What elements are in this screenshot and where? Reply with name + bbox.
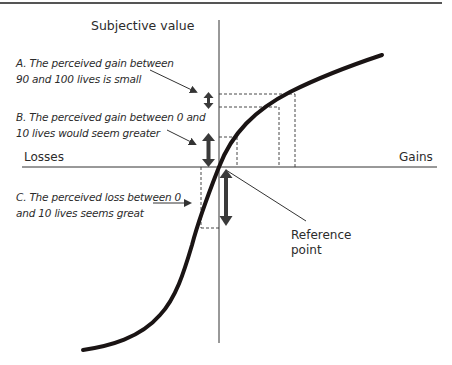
annotation-b: B. The perceived gain between 0 and 10 l… bbox=[16, 109, 206, 141]
dashed-guides bbox=[201, 94, 295, 228]
annotation-a: A. The perceived gain between 90 and 100… bbox=[16, 55, 174, 87]
x-axis-losses-label: Losses bbox=[24, 150, 64, 164]
reference-point-label: Reference point bbox=[291, 228, 351, 258]
y-axis-label: Subjective value bbox=[91, 18, 194, 33]
annotation-c: C. The perceived loss between 0 and 10 l… bbox=[16, 189, 181, 221]
double-arrow-c-icon bbox=[220, 169, 233, 226]
x-axis-gains-label: Gains bbox=[399, 150, 433, 164]
double-arrow-a-icon bbox=[204, 92, 214, 109]
pointer-reference bbox=[226, 170, 306, 221]
